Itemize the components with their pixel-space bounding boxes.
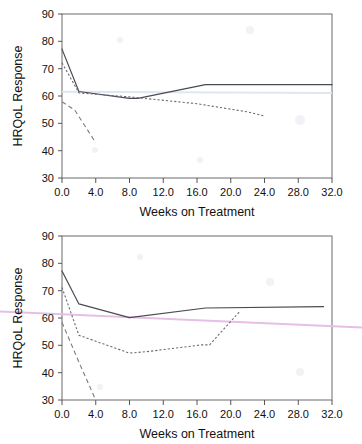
dotted-line-top [62,63,265,116]
x-tick-label: 12.0 [153,186,174,198]
y-tick-label: 60 [42,312,54,324]
x-tick-label: 24.0 [254,186,275,198]
y-tick-label: 90 [42,230,54,242]
y-axis-top: 30 40 50 60 70 80 90 [42,8,62,184]
plot-frame-bottom [62,236,332,400]
scan-noise-bottom [97,254,304,390]
reference-line-top [62,92,332,93]
reference-line-bottom [0,312,362,328]
y-tick-label: 90 [42,8,54,20]
y-axis-title-bottom: HRQoL Response [11,267,25,368]
plot-frame-top [62,14,332,178]
x-tick-label: 12.0 [153,408,174,420]
y-axis-bottom: 30 40 50 60 70 80 90 [42,230,62,406]
y-tick-label: 70 [42,285,54,297]
x-tick-label: 28.0 [288,408,309,420]
chart-bottom-svg: 30 40 50 60 70 80 90 0.0 4.0 8.0 12.0 16… [0,222,362,444]
x-axis-top: 0.0 4.0 8.0 12.0 16.0 20.0 24.0 28.0 32.… [54,178,342,198]
y-axis-title-top: HRQoL Response [11,45,25,146]
x-tick-label: 4.0 [88,186,103,198]
x-tick-label: 28.0 [288,186,309,198]
chart-top-svg: 30 40 50 60 70 80 90 0.0 4.0 8.0 12.0 16… [0,0,362,222]
scan-noise-top [92,26,305,163]
y-tick-label: 40 [42,367,54,379]
x-tick-label: 32.0 [321,408,342,420]
y-tick-label: 80 [42,257,54,269]
y-tick-label: 70 [42,63,54,75]
y-tick-label: 50 [42,339,54,351]
y-tick-label: 80 [42,35,54,47]
x-tick-label: 8.0 [122,408,137,420]
dashed-line-top [62,102,96,143]
x-tick-label: 24.0 [254,408,275,420]
x-axis-title-bottom: Weeks on Treatment [139,427,255,441]
y-tick-label: 50 [42,117,54,129]
chart-panel-bottom: 30 40 50 60 70 80 90 0.0 4.0 8.0 12.0 16… [0,222,362,444]
y-tick-label: 30 [42,394,54,406]
y-tick-label: 30 [42,172,54,184]
dashed-line-bottom [62,322,96,400]
y-tick-label: 40 [42,145,54,157]
chart-panel-top: 30 40 50 60 70 80 90 0.0 4.0 8.0 12.0 16… [0,0,362,222]
x-tick-label: 0.0 [54,408,69,420]
x-tick-label: 4.0 [88,408,103,420]
solid-line-bottom [62,271,324,318]
x-tick-label: 0.0 [54,186,69,198]
x-tick-label: 32.0 [321,186,342,198]
y-tick-label: 60 [42,90,54,102]
x-tick-label: 20.0 [220,408,241,420]
x-tick-label: 16.0 [186,408,207,420]
x-axis-bottom: 0.0 4.0 8.0 12.0 16.0 20.0 24.0 28.0 32.… [54,400,342,420]
x-tick-label: 20.0 [220,186,241,198]
x-axis-title-top: Weeks on Treatment [139,205,255,219]
x-tick-label: 8.0 [122,186,137,198]
x-tick-label: 16.0 [186,186,207,198]
